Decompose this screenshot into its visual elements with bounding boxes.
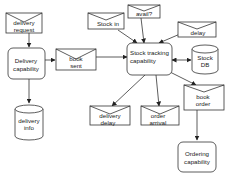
arrow-avail-to-stock — [141, 18, 144, 43]
message-delivery-request[interactable]: delivery request — [6, 13, 42, 33]
label: arrival — [150, 119, 167, 126]
label: delivery — [18, 117, 40, 124]
label: info — [24, 124, 35, 131]
arrow-stock-to-bookorder — [170, 72, 196, 85]
label: avail? — [136, 10, 153, 17]
process-delivery-capability[interactable]: Delivery capability — [8, 48, 45, 79]
message-delay[interactable]: delay — [178, 22, 216, 37]
message-book-sent[interactable]: book sent — [56, 49, 96, 70]
message-order-arrival[interactable]: order arrival — [141, 106, 179, 126]
flow-diagram: delivery request book sent Stock in avai… — [0, 0, 231, 178]
label: Delivery — [15, 57, 38, 64]
label: Stock in — [97, 20, 120, 27]
arrow-delay-to-stock — [159, 34, 180, 43]
label: book — [196, 93, 210, 100]
label: DB — [201, 61, 210, 68]
label: capability — [13, 65, 40, 72]
process-stock-tracking[interactable]: Stock tracking capability — [127, 43, 172, 75]
label: request — [14, 26, 35, 33]
label: Stock — [197, 54, 213, 61]
label: delay — [191, 29, 207, 36]
label: Ordering — [185, 150, 210, 157]
message-stock-in[interactable]: Stock in — [88, 13, 124, 29]
label: book — [69, 55, 83, 62]
process-ordering-capability[interactable]: Ordering capability — [178, 142, 216, 172]
label: Stock tracking — [130, 49, 169, 56]
arrow-stock-to-orderarrival — [156, 75, 159, 106]
arrow-stock-to-deliverydelay — [112, 75, 145, 106]
datastore-stock-db[interactable]: Stock DB — [192, 45, 218, 74]
cylinder-icon — [192, 45, 218, 53]
arrow-stockin-to-stock — [118, 30, 137, 43]
message-delivery-delay[interactable]: delivery delay — [90, 106, 130, 126]
message-avail[interactable]: avail? — [128, 5, 160, 18]
cylinder-icon — [15, 105, 43, 113]
label: order — [151, 112, 165, 119]
label: delivery — [13, 19, 35, 26]
label: capability — [130, 57, 157, 64]
label: delivery — [99, 112, 121, 119]
datastore-delivery-info[interactable]: delivery info — [15, 105, 43, 140]
message-book-order[interactable]: book order — [184, 85, 224, 110]
label: delay — [101, 119, 117, 126]
label: order — [196, 100, 210, 107]
label: sent — [70, 62, 82, 69]
label: capability — [184, 158, 211, 165]
